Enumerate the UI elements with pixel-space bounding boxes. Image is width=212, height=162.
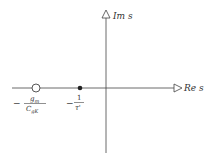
- svg-text:−: −: [13, 98, 21, 108]
- svg-text:τ': τ': [75, 104, 81, 112]
- svg-text:−: −: [66, 98, 74, 108]
- imaginary-axis-arrow-icon: [102, 10, 110, 18]
- svg-text:gm: gm: [30, 95, 39, 104]
- pole-marker-icon: [78, 86, 83, 91]
- zero-label: − gm CgK: [13, 95, 46, 115]
- svg-text:1: 1: [77, 94, 81, 102]
- s-plane-diagram: Im s Re s − gm CgK − 1 τ': [0, 0, 212, 162]
- imaginary-axis-label: Im s: [112, 11, 133, 21]
- real-axis-arrow-icon: [174, 84, 182, 92]
- zero-marker-icon: [32, 84, 40, 92]
- pole-label: − 1 τ': [66, 94, 84, 112]
- svg-text:CgK: CgK: [26, 105, 39, 115]
- real-axis-label: Re s: [183, 83, 204, 93]
